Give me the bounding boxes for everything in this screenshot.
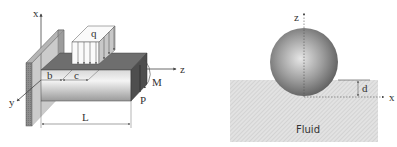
x-axis-label: x [33,7,39,19]
z-axis-label: z [180,63,185,75]
depth-d-label: d [362,82,368,94]
y-axis-label: y [9,96,15,108]
load-q-label: q [91,27,97,39]
force-p-label: P [140,94,146,106]
sphere-figure: Fluid z x d [230,11,395,142]
dimension-l-label: L [82,111,89,123]
x-axis-label: x [389,91,395,103]
moment-m-label: M [152,76,162,88]
beam-front-face [41,70,131,101]
beam-figure: x q z [9,7,185,128]
z-axis-label: z [294,11,299,23]
diagram-canvas: x q z [0,0,397,147]
dimension-c-label: c [74,69,79,81]
fluid-label: Fluid [296,124,320,135]
dimension-b-label: b [47,69,53,81]
sphere [270,28,338,96]
